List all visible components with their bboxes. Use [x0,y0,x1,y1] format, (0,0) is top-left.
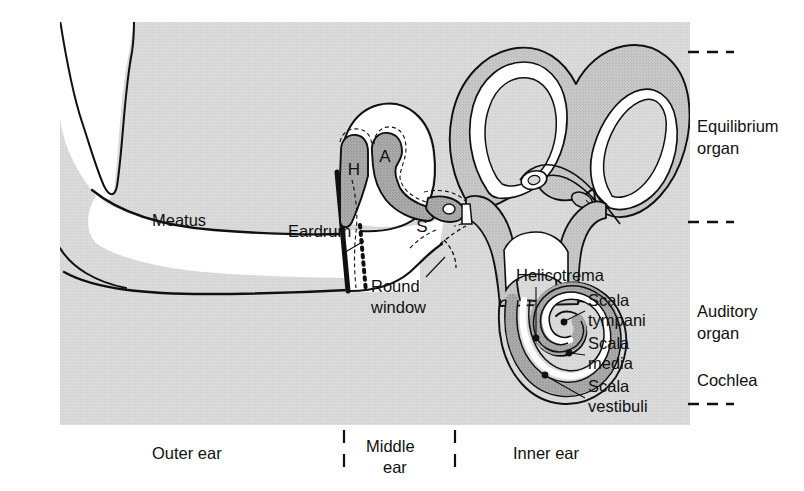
helicotrema-point [533,335,540,342]
label-ossicle-anvil: A [379,147,391,166]
ear-anatomy-figure: Meatus Eardrum Round window H A S Helico… [0,0,804,491]
label-middle-ear-line2: ear [383,458,407,476]
label-round-window-line1: Round [371,277,420,295]
label-scala-tympani-line1: Scala [588,291,630,309]
label-scala-media-line2: media [588,354,634,372]
label-helicotrema: Helicotrema [516,266,605,284]
label-auditory-organ-line2: organ [697,324,739,342]
label-middle-ear-line1: Middle [366,437,415,455]
label-ossicle-stirrup: S [416,217,427,236]
label-ossicle-hammer: H [348,160,360,179]
scala-media-point [566,350,573,357]
label-equilibrium-organ-line2: organ [697,139,739,157]
scala-vestibuli-point [542,372,549,379]
label-cochlea: Cochlea [697,371,758,389]
label-outer-ear: Outer ear [152,444,222,462]
label-meatus: Meatus [152,211,206,229]
label-equilibrium-organ-line1: Equilibrium [697,117,779,135]
scala-tympani-point [561,319,568,326]
label-eardrum: Eardrum [288,222,351,240]
label-round-window-line2: window [370,298,426,316]
label-scala-vestibuli-line1: Scala [588,377,630,395]
label-scala-vestibuli-line2: vestibuli [588,397,648,415]
ear-diagram-svg: Meatus Eardrum Round window H A S Helico… [0,0,804,491]
label-auditory-organ-line1: Auditory [697,302,758,320]
label-scala-media-line1: Scala [588,334,630,352]
label-scala-tympani-line2: tympani [588,311,646,329]
semicircular-canals [450,45,690,224]
label-inner-ear: Inner ear [513,444,580,462]
